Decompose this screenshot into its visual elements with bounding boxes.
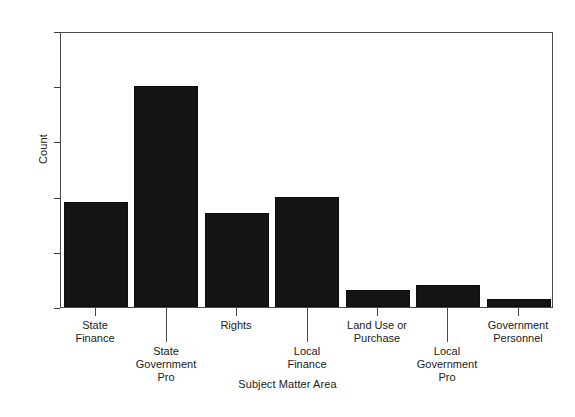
x-tick-mark [307,308,308,342]
x-tick-mark [518,308,519,316]
x-tick-label: State Finance [40,319,150,345]
bar [275,197,339,307]
x-tick-mark [377,308,378,316]
bar [205,213,269,307]
bar [134,86,198,307]
bar [346,290,410,307]
x-tick-label: Local Finance [252,345,362,371]
x-tick-label: Government Personnel [463,319,573,345]
bar [416,285,480,307]
bar-chart: Count 01020304050 State FinanceState Gov… [0,0,575,417]
x-tick-label: Land Use or Purchase [322,319,432,345]
bars-container [61,33,552,307]
bar [64,202,128,307]
x-tick-mark [95,308,96,316]
x-axis-title: Subject Matter Area [0,378,575,390]
x-tick-mark [236,308,237,316]
y-axis-ticks: 01020304050 [0,0,60,417]
x-tick-label: Rights [181,319,291,332]
plot-area [60,32,553,308]
bar [487,299,551,307]
x-tick-mark [447,308,448,342]
x-axis-ticks: State FinanceState Government ProRightsL… [60,308,553,388]
x-tick-mark [166,308,167,342]
